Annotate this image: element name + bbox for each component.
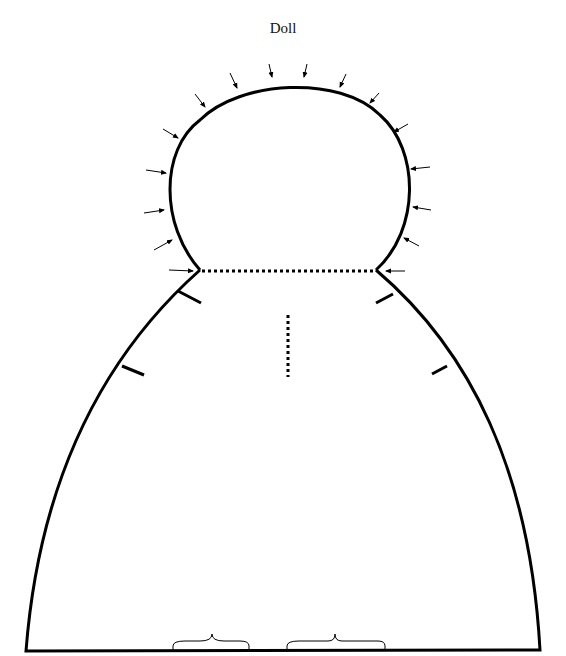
doll-pattern bbox=[0, 0, 566, 656]
body-outline bbox=[26, 270, 540, 651]
head-outline bbox=[170, 87, 410, 270]
bottom-braces bbox=[173, 634, 385, 651]
stitch-arrows bbox=[144, 64, 431, 271]
notch-marks bbox=[122, 291, 447, 375]
